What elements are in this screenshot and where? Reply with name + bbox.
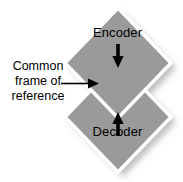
caption-line-1: Common [2, 59, 74, 74]
decoder-label: Decoder [26, 124, 183, 139]
caption-line-2: frame of [2, 74, 74, 89]
encoder-decoder-diagram: Encoder Decoder Common frame of referenc… [0, 0, 183, 182]
caption-line-3: reference [2, 89, 74, 104]
common-frame-caption: Common frame of reference [2, 59, 74, 104]
encoder-label: Encoder [26, 25, 183, 40]
